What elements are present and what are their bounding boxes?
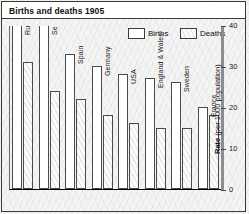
title-bar: Births and deaths 1905 [2, 2, 245, 19]
bar-births [198, 107, 208, 189]
bar-births [65, 54, 75, 189]
y-axis-title-bold: Rate [213, 138, 222, 154]
y-tick-mark [221, 190, 226, 191]
bar-deaths [23, 62, 33, 189]
category-label-germany: Germany [104, 47, 111, 77]
y-tick-label: 0 [229, 185, 233, 194]
y-axis-title-rest: (per 1000 population) [213, 64, 222, 137]
y-tick-label: 40 [229, 21, 237, 30]
bar-deaths [76, 99, 86, 189]
bar-births [118, 74, 128, 189]
y-tick-label: 30 [229, 62, 237, 71]
bar-deaths [50, 91, 60, 189]
bar-deaths [156, 128, 166, 190]
page-title: Births and deaths 1905 [9, 6, 104, 16]
category-label-england-wales: England & Wales [157, 33, 164, 88]
category-label-spain: Spain [77, 45, 84, 63]
plot-area: RussiaSerbiaSpainGermanyUSAEngland & Wal… [9, 26, 221, 190]
category-label-serbia: Serbia [51, 26, 58, 35]
chart-screenshot: Births and deaths 1905 Births Deaths Rus… [0, 0, 249, 214]
bar-births [171, 82, 181, 189]
bar-deaths [103, 115, 113, 189]
category-label-sweden: Sweden [183, 66, 190, 92]
y-axis-title: Rate (per 1000 population) [213, 64, 222, 154]
bar-deaths [129, 123, 139, 189]
category-label-russia: Russia [24, 26, 31, 35]
bar-births [145, 78, 155, 189]
bar-births [39, 26, 49, 189]
bar-births [92, 66, 102, 189]
y-tick-label: 10 [229, 144, 237, 153]
y-tick-mark [221, 26, 226, 27]
y-tick-label: 20 [229, 103, 237, 112]
category-label-usa: USA [130, 69, 137, 84]
bar-deaths [182, 128, 192, 190]
bar-births [12, 26, 22, 189]
